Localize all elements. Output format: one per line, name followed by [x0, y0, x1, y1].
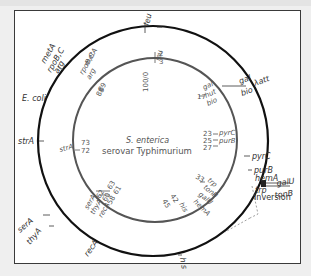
inner-pos-3: 3 [159, 58, 163, 66]
inner-pos-45: 45 [160, 198, 171, 210]
inner-pos-72: 72 [81, 147, 90, 155]
outer-gene-gal: gal [238, 73, 253, 86]
outer-label-ecoli: E. coli [22, 94, 47, 103]
inversion-label: Inversion [254, 193, 291, 202]
inner-pos-27: 27 [203, 144, 212, 152]
inner-gene-purB: purB [218, 137, 236, 145]
outer-gene-pyrC: pyrC [251, 152, 271, 161]
inner-pos-2: 2 [159, 50, 163, 58]
inner-label-serovar: serovar Typhimurium [102, 146, 192, 156]
outer-gene-lambda-att: λatt [252, 74, 272, 89]
inner-pos-73: 73 [81, 139, 90, 147]
inner-gene-strA: strA [58, 143, 74, 154]
inner-gene-pyrC: pyrC [218, 129, 235, 137]
outer-gene-leu: leu [142, 13, 153, 27]
inner-label-species: S. enterica [126, 136, 169, 145]
inner-gene-his: his [177, 201, 189, 214]
outer-gene-strA: strA [18, 137, 34, 146]
outer-gene-galU: galU [276, 177, 295, 188]
outer-gene-bio: bio [240, 85, 255, 98]
genome-map: leu metA rpoB,C arg E. coli gal bio λatt… [0, 0, 311, 276]
outer-gene-his: his [178, 257, 189, 270]
outer-gene-hemA: hemA [255, 174, 278, 183]
inner-pos-100: 100/0 [142, 72, 150, 92]
outer-gene-thyA: thyA [25, 226, 44, 246]
inner-pos-33: 33 [194, 173, 206, 184]
